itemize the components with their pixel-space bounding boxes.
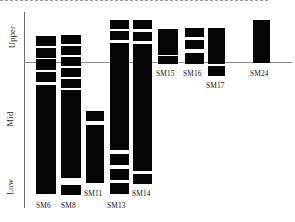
- bar-segment[interactable]: [61, 79, 81, 88]
- bar-segment[interactable]: [36, 85, 56, 194]
- bar-segment[interactable]: [133, 174, 152, 184]
- bar-segment[interactable]: [158, 56, 178, 64]
- bar-segment[interactable]: [110, 31, 129, 40]
- zone-label-upper: Upper: [7, 17, 17, 57]
- bar-segment[interactable]: [110, 183, 129, 194]
- sample-label-sm8: SM8: [61, 201, 76, 210]
- bar-segment[interactable]: [133, 32, 152, 41]
- sample-label-sm14: SM14: [132, 189, 150, 198]
- vertical-axis: [24, 12, 25, 208]
- bar-segment[interactable]: [110, 43, 129, 150]
- bar-segment[interactable]: [61, 35, 81, 44]
- bar-segment[interactable]: [61, 90, 81, 178]
- sample-label-sm6: SM6: [36, 201, 51, 210]
- sample-label-sm15: SM15: [156, 69, 174, 78]
- bar-segment[interactable]: [208, 28, 225, 64]
- bar-segment[interactable]: [185, 28, 204, 37]
- bar-segment[interactable]: [86, 125, 104, 183]
- bar-segment[interactable]: [36, 59, 56, 70]
- sample-label-sm17: SM17: [206, 81, 224, 90]
- bar-segment[interactable]: [158, 29, 178, 55]
- bar-segment[interactable]: [36, 48, 56, 58]
- sample-label-sm24: SM24: [250, 69, 268, 78]
- bar-segment[interactable]: [61, 46, 81, 55]
- bar-segment[interactable]: [133, 20, 152, 29]
- bar-segment[interactable]: [185, 53, 204, 64]
- bar-segment[interactable]: [36, 36, 56, 46]
- bar-segment[interactable]: [208, 66, 225, 76]
- bar-segment[interactable]: [61, 185, 81, 195]
- zone-label-mid: Mid: [5, 99, 15, 139]
- bar-segment[interactable]: [61, 57, 81, 66]
- zone-label-low: Low: [5, 167, 15, 207]
- bar-segment[interactable]: [253, 20, 270, 63]
- bar-segment[interactable]: [133, 44, 152, 171]
- bar-segment[interactable]: [86, 111, 104, 121]
- bar-segment[interactable]: [110, 20, 129, 29]
- bar-segment[interactable]: [110, 169, 129, 180]
- sample-label-sm11: SM11: [84, 189, 102, 198]
- bar-segment[interactable]: [61, 68, 81, 77]
- sample-label-sm16: SM16: [183, 69, 201, 78]
- stratigraphic-column-chart: Upper Mid Low SM6SM8SM11SM13SM14SM15SM16…: [0, 0, 295, 222]
- mid-low-boundary-line: [0, 0, 268, 1]
- bar-segment[interactable]: [36, 72, 56, 82]
- bar-segment[interactable]: [110, 154, 129, 165]
- sample-label-sm13: SM13: [107, 201, 125, 210]
- bar-segment[interactable]: [185, 40, 204, 49]
